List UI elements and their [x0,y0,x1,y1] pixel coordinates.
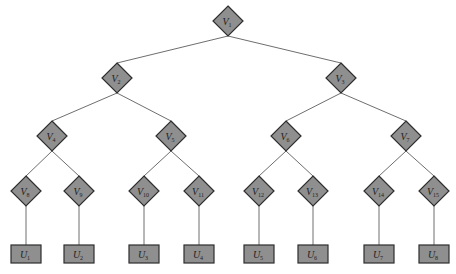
node-label-subscript: 11 [198,192,204,198]
node-v13: V13 [298,176,328,206]
node-label-subscript: 7 [380,255,383,261]
node-v6: V6 [271,121,301,151]
node-label-subscript: 2 [118,79,121,85]
node-label-subscript: 14 [378,192,384,198]
node-u7: U7 [364,245,394,263]
node-v7: V7 [391,121,421,151]
node-label-subscript: 1 [229,22,232,28]
tree-nodes: V1V2V3V4V5V6V7V8V9V10V11V12V13V14V15U1U2… [11,6,449,263]
node-label-subscript: 4 [200,255,203,261]
node-label-subscript: 4 [53,137,56,143]
node-label-subscript: 1 [27,255,30,261]
node-v5: V5 [156,121,186,151]
node-u6: U6 [298,245,328,263]
node-v11: V11 [184,176,214,206]
node-label-subscript: 5 [260,255,263,261]
node-label-subscript: 3 [145,255,148,261]
node-label-subscript: 12 [258,192,264,198]
node-v3: V3 [326,63,356,93]
edge-v2-v5 [117,93,171,121]
node-v10: V10 [129,176,159,206]
node-label-subscript: 5 [172,137,175,143]
edge-v1-v2 [117,36,228,63]
node-u5: U5 [244,245,274,263]
node-u4: U4 [184,245,214,263]
node-v4: V4 [37,121,67,151]
edge-v6-v13 [286,151,313,176]
node-label-subscript: 13 [312,192,318,198]
edge-v2-v4 [52,93,117,121]
tree-diagram: V1V2V3V4V5V6V7V8V9V10V11V12V13V14V15U1U2… [0,0,456,274]
node-label-subscript: 8 [27,192,30,198]
node-label-subscript: 9 [80,192,83,198]
node-label-subscript: 7 [407,137,410,143]
edge-v3-v7 [341,93,406,121]
edge-v5-v10 [144,151,171,176]
node-label-subscript: 6 [314,255,317,261]
node-label-subscript: 6 [287,137,290,143]
node-v14: V14 [364,176,394,206]
edge-v1-v3 [228,36,341,63]
node-label-subscript: 2 [80,255,83,261]
node-v15: V15 [419,176,449,206]
tree-edges [26,36,434,245]
node-label-subscript: 3 [342,79,345,85]
node-v12: V12 [244,176,274,206]
node-u3: U3 [129,245,159,263]
node-label-subscript: 10 [143,192,149,198]
node-u2: U2 [64,245,94,263]
edge-v7-v14 [379,151,406,176]
edge-v4-v8 [26,151,52,176]
edge-v6-v12 [259,151,286,176]
node-v1: V1 [213,6,243,36]
node-label-subscript: 8 [435,255,438,261]
edge-v5-v11 [171,151,199,176]
node-label-subscript: 15 [433,192,439,198]
node-u1: U1 [11,245,41,263]
node-v9: V9 [64,176,94,206]
node-u8: U8 [419,245,449,263]
edge-v3-v6 [286,93,341,121]
edge-v4-v9 [52,151,79,176]
edge-v7-v15 [406,151,434,176]
node-v8: V8 [11,176,41,206]
node-v2: V2 [102,63,132,93]
